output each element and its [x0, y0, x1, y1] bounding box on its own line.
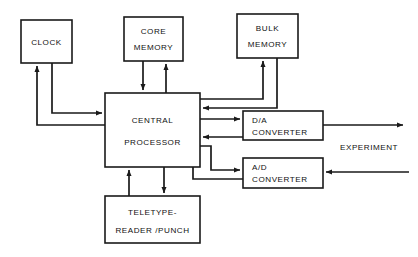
free-labels-layer: EXPERIMENT	[340, 143, 398, 152]
block-da-converter-label-line1: D/A	[252, 116, 267, 125]
connector-cpu-to-bulk-memory	[200, 61, 263, 99]
block-central-processor-label-line1: CENTRAL	[132, 116, 174, 125]
block-core-memory-label-line2: MEMORY	[134, 43, 174, 52]
block-ad-converter-label-line1: A/D	[252, 163, 267, 172]
block-core-memory-rect	[124, 17, 183, 61]
block-core-memory-label-line1: CORE	[141, 27, 167, 36]
block-bulk-memory-label-line1: BULK	[256, 24, 279, 33]
block-teletype-label-line1: TELETYPE-	[128, 208, 177, 217]
block-bulk-memory[interactable]: BULK MEMORY	[237, 14, 298, 58]
blocks-layer: CLOCK CORE MEMORY BULK MEMORY CENTRAL PR…	[21, 14, 323, 243]
connector-ad-converter-to-cpu	[193, 167, 243, 179]
connections-layer	[37, 58, 409, 196]
block-teletype-label-line2: READER /PUNCH	[115, 226, 189, 235]
connector-bulk-memory-to-cpu	[203, 58, 277, 108]
connector-cpu-to-clock	[37, 66, 105, 125]
diagram-svg: CLOCK CORE MEMORY BULK MEMORY CENTRAL PR…	[0, 0, 418, 257]
block-diagram-canvas: CLOCK CORE MEMORY BULK MEMORY CENTRAL PR…	[0, 0, 418, 257]
block-core-memory[interactable]: CORE MEMORY	[124, 17, 183, 61]
connector-cpu-to-ad-converter	[200, 146, 240, 170]
block-bulk-memory-rect	[237, 14, 298, 58]
block-ad-converter[interactable]: A/D CONVERTER	[243, 158, 323, 188]
block-clock[interactable]: CLOCK	[21, 20, 72, 63]
block-da-converter[interactable]: D/A CONVERTER	[243, 111, 323, 140]
block-central-processor[interactable]: CENTRAL PROCESSOR	[105, 93, 200, 167]
block-central-processor-rect	[105, 93, 200, 167]
connector-clock-to-cpu	[52, 63, 102, 113]
block-clock-label-line1: CLOCK	[31, 38, 62, 47]
block-ad-converter-label-line2: CONVERTER	[252, 175, 308, 184]
block-teletype[interactable]: TELETYPE- READER /PUNCH	[105, 196, 200, 243]
experiment-label: EXPERIMENT	[340, 143, 398, 152]
block-teletype-rect	[105, 196, 200, 243]
block-da-converter-label-line2: CONVERTER	[252, 128, 308, 137]
block-central-processor-label-line2: PROCESSOR	[124, 138, 181, 147]
block-bulk-memory-label-line2: MEMORY	[248, 40, 288, 49]
